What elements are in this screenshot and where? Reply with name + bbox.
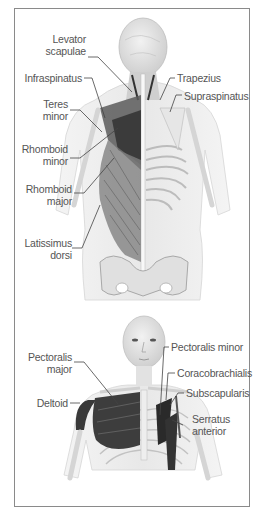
label-line: Coracobrachialis [177,367,252,379]
label-line: Latissimus [24,237,72,249]
label-latissimus-dorsi: Latissimus dorsi [24,237,72,261]
label-line: Serratus [192,413,230,425]
label-deltoid: Deltoid [37,397,68,409]
label-serratus-anterior: Serratus anterior [192,413,230,437]
label-pectoralis-minor: Pectoralis minor [171,341,243,353]
spine [141,74,145,274]
label-pectoralis-major: Pectoralis major [28,351,72,375]
label-levator-scapulae: Levator scapulae [46,33,86,57]
label-subscapularis: Subscapularis [186,387,249,399]
pectoralis-major [93,392,140,449]
label-line: dorsi [24,249,72,261]
label-line: Teres [43,98,68,110]
skull [119,18,167,76]
label-line: Pectoralis [28,351,72,363]
label-supraspinatus: Supraspinatus [184,90,249,102]
label-line: Rhomboid [26,183,72,195]
label-line: Levator [46,33,86,45]
label-line: Pectoralis minor [171,341,243,353]
label-line: minor [43,110,68,122]
label-line: Subscapularis [186,387,249,399]
label-line: Rhomboid [22,143,68,155]
label-line: minor [22,155,68,167]
label-line: major [28,363,72,375]
label-line: Infraspinatus [24,72,82,84]
label-trapezius: Trapezius [177,72,221,84]
posterior-figure [56,18,230,300]
label-line: Trapezius [177,72,221,84]
label-rhomboid-minor: Rhomboid minor [22,143,68,167]
label-line: anterior [192,425,230,437]
label-line: Supraspinatus [184,90,249,102]
label-rhomboid-major: Rhomboid major [26,183,72,207]
label-line: scapulae [46,45,86,57]
label-teres-minor: Teres minor [43,98,68,122]
label-infraspinatus: Infraspinatus [24,72,82,84]
label-coracobrachialis: Coracobrachialis [177,367,252,379]
label-line: major [26,195,72,207]
label-line: Deltoid [37,397,68,409]
